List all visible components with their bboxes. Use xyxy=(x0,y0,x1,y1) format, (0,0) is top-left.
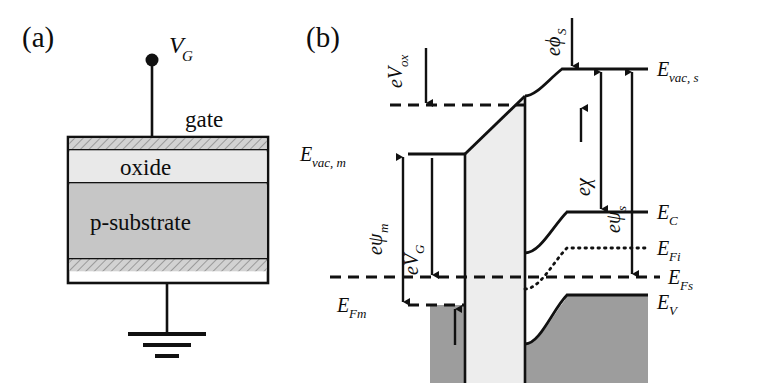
label-e-vac-s-base: E xyxy=(656,58,669,80)
panel-b-tag: (b) xyxy=(306,21,340,54)
label-e-fm-base: E xyxy=(336,294,349,316)
panel-a: (a) V G gate oxide p-substrate xyxy=(22,21,268,356)
label-e-fm: E Fm xyxy=(336,294,366,321)
label-e-psi-s-base: eψ xyxy=(602,211,625,233)
semiconductor-valence-fill xyxy=(525,295,648,383)
label-e-vac-s: E vac, s xyxy=(656,58,699,85)
label-e-psi-m-sub: m xyxy=(376,224,391,233)
label-e-psi-s-sub: s xyxy=(614,206,629,211)
gate-voltage-subscript: G xyxy=(182,48,193,64)
label-e-c-base: E xyxy=(656,201,669,223)
substrate-label: p-substrate xyxy=(90,210,191,235)
figure-container: (a) V G gate oxide p-substrate xyxy=(0,0,770,388)
gate-terminal-dot xyxy=(146,54,159,67)
back-contact-strip xyxy=(69,259,266,271)
label-e-chi: eχ xyxy=(572,177,595,196)
gate-voltage-label: V G xyxy=(169,32,193,64)
label-e-vac-m-base: E xyxy=(299,143,312,165)
label-e-phi-s: eϕ S xyxy=(542,28,569,56)
gate-metal-strip xyxy=(69,138,266,150)
label-e-chi-base: eχ xyxy=(572,177,595,196)
label-e-fs-sub: Fs xyxy=(679,278,693,293)
panel-b: (b) xyxy=(299,18,699,383)
label-e-v-g-sub: G xyxy=(412,244,427,254)
oxide-region-fill xyxy=(465,96,525,383)
label-e-vac-s-sub: vac, s xyxy=(669,70,699,85)
label-e-psi-m: eψ m xyxy=(364,224,391,255)
label-e-v-base: E xyxy=(656,291,669,313)
label-e-phi-s-base: eϕ xyxy=(542,37,565,56)
curve-e-fi xyxy=(525,248,648,289)
label-e-fi-base: E xyxy=(656,237,669,259)
gate-label: gate xyxy=(185,107,223,132)
metal-filled-states xyxy=(430,305,465,383)
label-e-phi-s-sub: S xyxy=(554,28,569,35)
label-e-v-ox: eV ox xyxy=(384,55,411,89)
label-e-c-sub: C xyxy=(669,213,678,228)
label-e-v-ox-sub: ox xyxy=(396,55,411,68)
label-e-vac-m-sub: vac, m xyxy=(312,155,346,170)
label-e-fs: E Fs xyxy=(667,266,693,293)
oxide-label: oxide xyxy=(120,155,171,180)
label-e-fi: E Fi xyxy=(656,237,681,264)
label-e-c: E C xyxy=(656,201,678,228)
label-e-fs-base: E xyxy=(667,266,680,288)
ground-symbol xyxy=(128,334,206,356)
figure-svg: (a) V G gate oxide p-substrate xyxy=(0,0,770,388)
label-e-psi-s: eψ s xyxy=(602,206,629,233)
label-e-fi-sub: Fi xyxy=(668,249,681,264)
label-e-psi-m-base: eψ xyxy=(364,233,387,255)
label-e-vac-m: E vac, m xyxy=(299,143,346,170)
curve-e-vac-s xyxy=(525,69,648,96)
label-e-v-sub: V xyxy=(669,303,679,318)
panel-a-tag: (a) xyxy=(22,21,54,54)
label-e-fm-sub: Fm xyxy=(348,306,366,321)
label-e-v: E V xyxy=(656,291,679,318)
